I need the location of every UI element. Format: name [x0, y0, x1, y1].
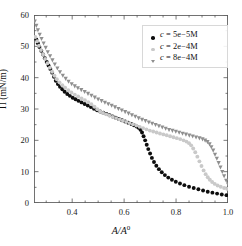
x-axis-label-base: A/A [112, 225, 127, 236]
legend-marker-triangle-icon [146, 50, 160, 66]
legend-item-2: c = 8e−4M [146, 52, 225, 64]
x-axis-label: A/A0 [112, 224, 131, 236]
legend: c = 5e−5M c = 2e−4M c = 8e−4M [142, 25, 228, 68]
legend-label-1: c = 2e−4M [160, 42, 198, 51]
x-tick-label: 1.0 [223, 207, 234, 217]
y-tick-label: 20 [4, 135, 29, 145]
legend-label-0: c = 5e−5M [160, 30, 198, 39]
figure-container: Π (mN/m) A/A0 01020304050600.40.60.81.0 … [0, 0, 242, 246]
y-tick-label: 10 [4, 167, 29, 177]
legend-label-2: c = 8e−4M [160, 53, 198, 62]
x-tick-label: 0.8 [171, 207, 182, 217]
x-tick-label: 0.6 [119, 207, 130, 217]
y-tick-label: 50 [4, 41, 29, 51]
y-tick-label: 60 [4, 10, 29, 20]
x-axis-label-superscript: 0 [127, 224, 131, 232]
y-tick-label: 30 [4, 104, 29, 114]
y-tick-label: 40 [4, 73, 29, 83]
x-tick-label: 0.4 [67, 207, 78, 217]
y-tick-label: 0 [4, 198, 29, 208]
